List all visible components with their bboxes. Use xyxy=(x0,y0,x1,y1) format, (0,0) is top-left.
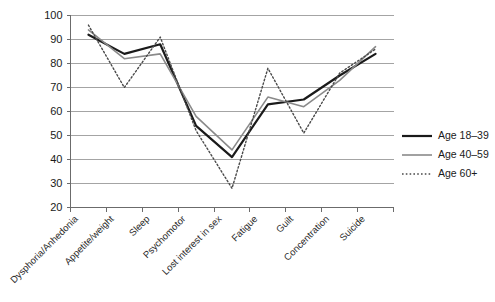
legend-label-3: Age 60+ xyxy=(438,167,477,179)
y-tick-label: 40 xyxy=(50,153,62,165)
data-series xyxy=(88,25,375,188)
series-line-1 xyxy=(88,35,375,157)
y-tick-label: 80 xyxy=(50,57,62,69)
y-axis-ticks xyxy=(67,16,71,208)
legend-label-2: Age 40–59 xyxy=(438,148,489,160)
y-tick-label: 60 xyxy=(50,105,62,117)
y-tick-label: 30 xyxy=(50,177,62,189)
x-axis-labels: Dysphoria/AnhedoniaAppetite/weightSleepP… xyxy=(8,213,367,286)
line-chart: 2030405060708090100 Dysphoria/AnhedoniaA… xyxy=(0,0,495,302)
legend-label-1: Age 18–39 xyxy=(438,129,489,141)
chart-container: 2030405060708090100 Dysphoria/AnhedoniaA… xyxy=(0,0,495,302)
gridlines xyxy=(71,16,394,184)
x-tick-label: Fatigue xyxy=(229,213,259,243)
y-tick-label: 50 xyxy=(50,129,62,141)
x-tick-label: Guilt xyxy=(274,213,296,235)
y-tick-label: 70 xyxy=(50,81,62,93)
x-axis-ticks xyxy=(71,208,394,212)
y-axis-labels: 2030405060708090100 xyxy=(44,9,62,213)
x-tick-label: Sleep xyxy=(127,213,152,238)
y-tick-label: 100 xyxy=(44,9,62,21)
y-tick-label: 20 xyxy=(50,201,62,213)
series-line-3 xyxy=(88,25,375,188)
x-tick-label: Dysphoria/Anhedonia xyxy=(8,213,81,286)
series-line-2 xyxy=(88,30,375,150)
chart-legend: Age 18–39Age 40–59Age 60+ xyxy=(402,129,489,179)
y-tick-label: 90 xyxy=(50,33,62,45)
x-tick-label: Suicide xyxy=(337,213,367,243)
